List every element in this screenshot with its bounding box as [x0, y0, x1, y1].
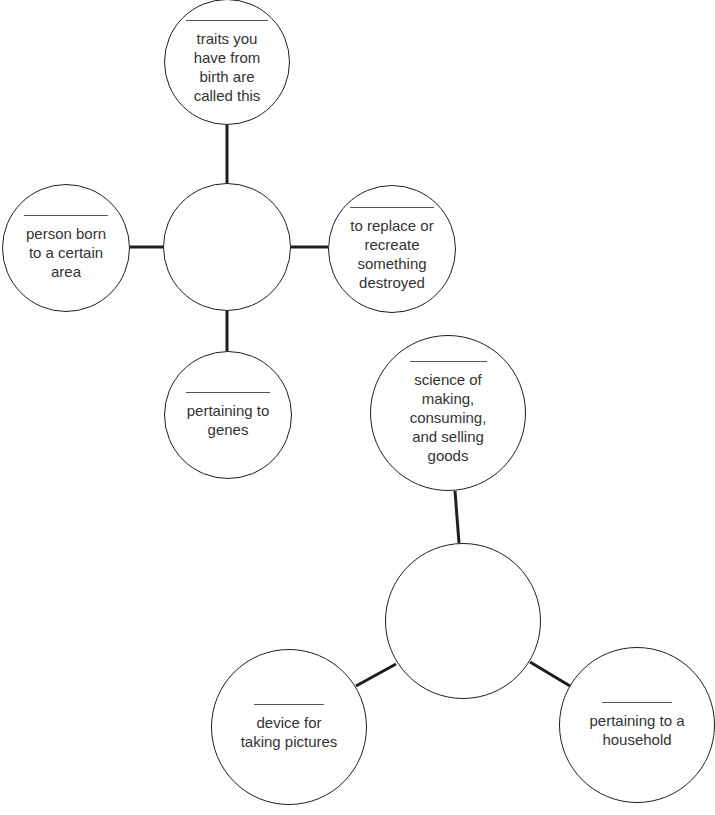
- connector-web2-right: [530, 662, 570, 686]
- answer-blank[interactable]: [24, 215, 107, 216]
- answer-blank[interactable]: [186, 392, 269, 393]
- clue-text: traits you have from birth are called th…: [184, 29, 271, 105]
- node-household[interactable]: pertaining to a household: [559, 647, 715, 803]
- clue-text: person born to a certain area: [16, 224, 116, 281]
- node-science-goods[interactable]: science of making, consuming, and sellin…: [370, 335, 526, 491]
- clue-text: pertaining to genes: [177, 401, 280, 439]
- node-device-pictures[interactable]: device for taking pictures: [211, 649, 367, 805]
- connector-web2-top: [455, 491, 459, 543]
- answer-blank[interactable]: [350, 207, 433, 208]
- node-traits-from-birth[interactable]: traits you have from birth are called th…: [164, 0, 290, 125]
- answer-blank[interactable]: [602, 702, 671, 703]
- node-replace-recreate[interactable]: to replace or recreate something destroy…: [328, 185, 456, 313]
- clue-text: device for taking pictures: [231, 713, 348, 751]
- node-person-born-area[interactable]: person born to a certain area: [2, 184, 130, 312]
- clue-text: pertaining to a household: [579, 711, 694, 749]
- node-pertaining-genes[interactable]: pertaining to genes: [164, 351, 292, 479]
- answer-blank[interactable]: [186, 20, 268, 21]
- clue-text: science of making, consuming, and sellin…: [400, 370, 497, 465]
- connector-web2-left: [356, 664, 396, 686]
- center-node-web2[interactable]: [385, 543, 541, 699]
- center-node-web1[interactable]: [163, 183, 291, 311]
- clue-text: to replace or recreate something destroy…: [340, 216, 443, 292]
- answer-blank[interactable]: [254, 704, 323, 705]
- answer-blank[interactable]: [410, 361, 487, 362]
